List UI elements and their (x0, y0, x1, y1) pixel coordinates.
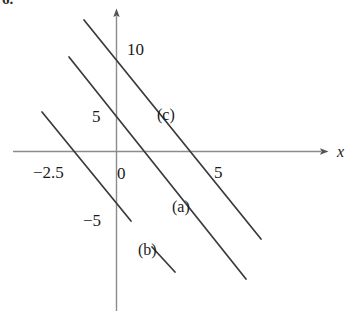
line-label-a: (a) (172, 199, 190, 215)
line-label-c: (c) (157, 107, 175, 123)
graph-figure: 6. 10 5 0 −5 −2.5 5 x (c) (a) (b) (0, 0, 355, 315)
graph-canvas (0, 0, 355, 315)
x-tick-label-neg2point5: −2.5 (33, 164, 64, 181)
y-tick-label-10: 10 (127, 41, 144, 58)
origin-label: 0 (117, 165, 126, 182)
y-tick-label-neg5: −5 (83, 212, 101, 229)
y-tick-label-5: 5 (92, 108, 101, 125)
x-tick-label-5: 5 (214, 164, 223, 181)
line-label-b: (b) (138, 242, 157, 258)
x-axis-name-label: x (337, 144, 344, 160)
